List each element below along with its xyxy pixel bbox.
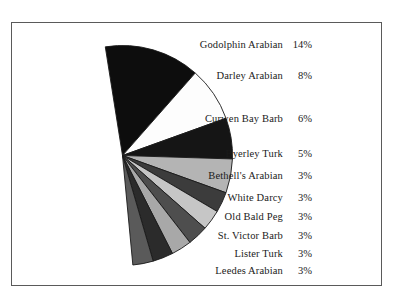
pie-label-percent: 3%: [286, 191, 312, 205]
pie-label-percent: 8%: [286, 69, 312, 83]
pie-label-name: Curwen Bay Barb: [205, 112, 283, 126]
pie-label-name: Darley Arabian: [216, 69, 283, 83]
pie-label-old-bald-peg: Old Bald Peg: [110, 210, 283, 224]
pie-label-name: Godolphin Arabian: [200, 38, 283, 52]
pie-value-old-bald-peg: 3%: [286, 210, 312, 224]
pie-value-curwen-bay-barb: 6%: [286, 112, 312, 126]
pie-value-lister-turk: 3%: [286, 247, 312, 261]
pie-label-percent: 3%: [286, 247, 312, 261]
pie-label-godolphin-arabian: Godolphin Arabian: [110, 38, 283, 52]
pie-label-byerley-turk: Byerley Turk: [110, 147, 283, 161]
pie-value-byerley-turk: 5%: [286, 147, 312, 161]
pie-label-percent: 3%: [286, 229, 312, 243]
pie-label-percent: 3%: [286, 169, 312, 183]
pie-label-percent: 14%: [286, 38, 312, 52]
pie-label-bethells-arabian: Bethell's Arabian: [110, 169, 283, 183]
pie-label-name: Bethell's Arabian: [208, 169, 283, 183]
pie-label-layer: Godolphin Arabian 14% Darley Arabian 8% …: [0, 0, 394, 304]
pie-value-leedes-arabian: 3%: [286, 264, 312, 278]
pie-label-lister-turk: Lister Turk: [110, 247, 283, 261]
pie-label-percent: 6%: [286, 112, 312, 126]
pie-value-godolphin-arabian: 14%: [286, 38, 312, 52]
pie-label-name: Old Bald Peg: [225, 210, 283, 224]
pie-label-percent: 5%: [286, 147, 312, 161]
pie-label-white-darcy: White Darcy: [110, 191, 283, 205]
pie-label-curwen-bay-barb: Curwen Bay Barb: [110, 112, 283, 126]
pie-label-name: Lister Turk: [234, 247, 283, 261]
pie-label-name: White Darcy: [227, 191, 283, 205]
pie-value-darley-arabian: 8%: [286, 69, 312, 83]
pie-label-st-victor-barb: St. Victor Barb: [110, 229, 283, 243]
pie-value-st-victor-barb: 3%: [286, 229, 312, 243]
pie-label-percent: 3%: [286, 264, 312, 278]
pie-label-name: St. Victor Barb: [218, 229, 283, 243]
pie-value-bethells-arabian: 3%: [286, 169, 312, 183]
pie-label-name: Leedes Arabian: [215, 264, 283, 278]
pie-label-percent: 3%: [286, 210, 312, 224]
pie-label-name: Byerley Turk: [225, 147, 283, 161]
pie-value-white-darcy: 3%: [286, 191, 312, 205]
pie-label-leedes-arabian: Leedes Arabian: [110, 264, 283, 278]
pie-label-darley-arabian: Darley Arabian: [110, 69, 283, 83]
figure-root: Godolphin Arabian 14% Darley Arabian 8% …: [0, 0, 394, 304]
